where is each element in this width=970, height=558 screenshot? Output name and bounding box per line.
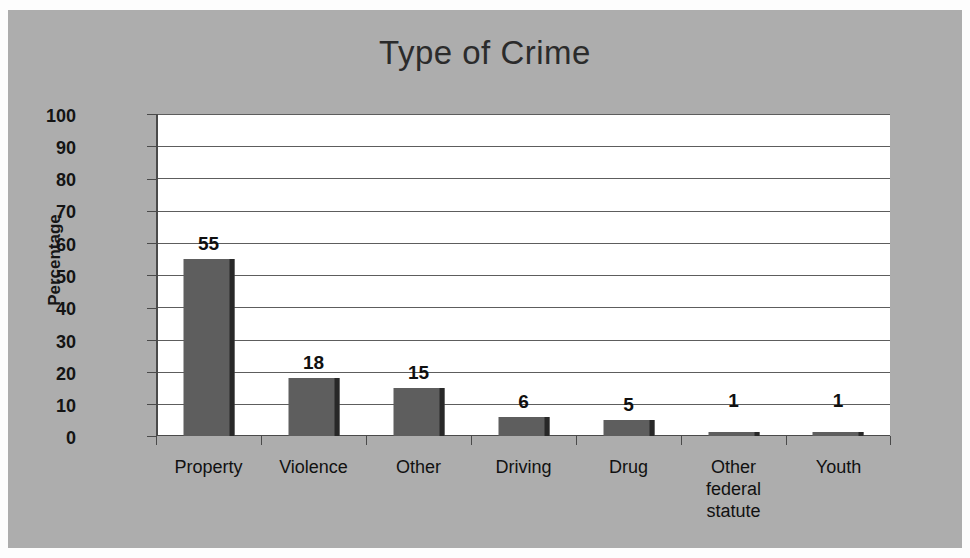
- x-tickmark: [576, 436, 577, 445]
- bar-slot-youth: 1: [786, 114, 890, 436]
- x-tickmark: [156, 436, 157, 445]
- chart-screenshot: Type of Crime Percentage 100 90 80 70 60…: [0, 0, 970, 558]
- x-label-line: Youth: [786, 456, 891, 478]
- y-tick-label-80: 80: [6, 171, 76, 189]
- bar-value-other-federal-statute: 1: [728, 391, 739, 410]
- chart-title: Type of Crime: [8, 34, 962, 72]
- bar-slot-drug: 5: [576, 114, 681, 436]
- x-label-line: federal: [681, 478, 786, 500]
- y-tickmark: [147, 211, 156, 212]
- x-tickmark: [786, 436, 787, 445]
- y-tickmark: [147, 179, 156, 180]
- y-tickmark: [147, 404, 156, 405]
- y-tickmark: [147, 340, 156, 341]
- x-label-line: Other: [366, 456, 471, 478]
- x-label-line: Violence: [261, 456, 366, 478]
- bar-driving[interactable]: [498, 417, 549, 436]
- x-label-driving: Driving: [471, 456, 576, 478]
- bar-value-property: 55: [198, 234, 219, 253]
- y-tick-label-100: 100: [6, 107, 76, 125]
- y-tick-label-40: 40: [6, 300, 76, 318]
- bar-slot-other: 15: [366, 114, 471, 436]
- bar-value-violence: 18: [303, 353, 324, 372]
- chart-canvas: Type of Crime Percentage 100 90 80 70 60…: [8, 10, 962, 548]
- y-tickmark: [147, 372, 156, 373]
- y-tick-label-90: 90: [6, 139, 76, 157]
- bar-value-other: 15: [408, 363, 429, 382]
- x-tickmark: [261, 436, 262, 445]
- bar-slot-property: 55: [156, 114, 261, 436]
- x-label-violence: Violence: [261, 456, 366, 478]
- y-tick-label-30: 30: [6, 333, 76, 351]
- x-label-line: Property: [156, 456, 261, 478]
- bars-layer: 55 18 15 6 5 1: [156, 114, 890, 436]
- x-tickmark: [890, 436, 891, 445]
- x-tickmark: [681, 436, 682, 445]
- bar-value-youth: 1: [833, 391, 844, 410]
- x-label-line: Driving: [471, 456, 576, 478]
- y-tickmark: [147, 146, 156, 147]
- y-tick-label-10: 10: [6, 397, 76, 415]
- y-tickmark: [147, 114, 156, 115]
- x-label-drug: Drug: [576, 456, 681, 478]
- y-tickmark: [147, 243, 156, 244]
- bar-slot-violence: 18: [261, 114, 366, 436]
- y-tickmark: [147, 308, 156, 309]
- y-tick-label-70: 70: [6, 203, 76, 221]
- y-tickmark: [147, 436, 156, 437]
- y-tickmark: [147, 275, 156, 276]
- x-tickmark: [471, 436, 472, 445]
- y-tick-label-20: 20: [6, 365, 76, 383]
- x-label-other: Other: [366, 456, 471, 478]
- x-label-line: Other: [681, 456, 786, 478]
- bar-slot-driving: 6: [471, 114, 576, 436]
- x-tickmark: [366, 436, 367, 445]
- y-tick-label-60: 60: [6, 236, 76, 254]
- x-label-line: Drug: [576, 456, 681, 478]
- bar-other[interactable]: [393, 388, 444, 436]
- bar-value-driving: 6: [518, 392, 529, 411]
- bar-drug[interactable]: [603, 420, 654, 436]
- bar-value-drug: 5: [623, 395, 634, 414]
- y-tick-label-50: 50: [6, 268, 76, 286]
- x-label-other-federal-statute: Other federal statute: [681, 456, 786, 522]
- bar-other-federal-statute[interactable]: [708, 432, 759, 436]
- y-tick-label-0: 0: [6, 429, 76, 447]
- bar-youth[interactable]: [813, 432, 864, 436]
- x-label-youth: Youth: [786, 456, 891, 478]
- bar-violence[interactable]: [288, 378, 339, 436]
- x-label-line: statute: [681, 500, 786, 522]
- bar-slot-other-federal-statute: 1: [681, 114, 786, 436]
- x-label-property: Property: [156, 456, 261, 478]
- bar-property[interactable]: [183, 259, 234, 436]
